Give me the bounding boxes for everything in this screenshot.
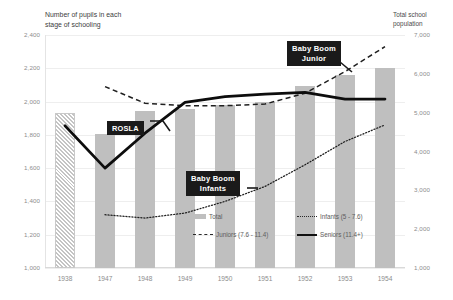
right-axis-tick-label: 2,000 <box>414 225 444 232</box>
legend-label-juniors: Juniors (7.6 - 11.4) <box>216 231 268 238</box>
x-axis-tick-label: 1938 <box>45 275 85 282</box>
gridline <box>45 268 405 269</box>
legend-label-seniors: Seniors (11.4+) <box>320 231 363 238</box>
right-axis-tick-label: 3,000 <box>414 186 444 193</box>
left-axis-title: Number of pupils in each stage of school… <box>45 10 205 30</box>
left-axis-tick-label: 2,400 <box>14 31 40 38</box>
left-axis-tick-label: 2,200 <box>14 64 40 71</box>
right-axis-tick-label: 5,000 <box>414 109 444 116</box>
right-axis-tick-label: 6,000 <box>414 70 444 77</box>
legend: Total Infants (5 - 7.6) Juniors (7.6 - 1… <box>193 213 405 249</box>
x-axis-tick-label: 1949 <box>165 275 205 282</box>
right-axis-tick-label: 4,000 <box>414 148 444 155</box>
right-axis-title: Total school population <box>393 10 451 29</box>
x-axis-tick-label: 1947 <box>85 275 125 282</box>
legend-label-total: Total <box>209 213 222 220</box>
left-axis-tick-label: 1,000 <box>14 264 40 271</box>
left-axis-tick-label: 1,800 <box>14 131 40 138</box>
callout-baby-boom-junior: Baby Boom Junior <box>287 41 341 66</box>
legend-solid-line-icon <box>297 234 317 236</box>
x-axis-tick-label: 1950 <box>205 275 245 282</box>
legend-item-seniors: Seniors (11.4+) <box>297 231 363 238</box>
legend-dotted-line-icon <box>297 216 317 217</box>
x-axis-tick-label: 1951 <box>245 275 285 282</box>
juniors-line <box>105 47 385 106</box>
legend-item-juniors: Juniors (7.6 - 11.4) <box>193 231 268 238</box>
right-axis-tick-label: 7,000 <box>414 31 444 38</box>
legend-bar-swatch-icon <box>193 214 206 219</box>
left-axis-tick-label: 1,400 <box>14 197 40 204</box>
x-axis-tick-label: 1948 <box>125 275 165 282</box>
left-axis-tick-label: 2,000 <box>14 98 40 105</box>
legend-item-total: Total <box>193 213 222 220</box>
x-axis-tick-label: 1953 <box>325 275 365 282</box>
callout-baby-boom-infants: Baby Boom Infants <box>186 171 240 196</box>
legend-label-infants: Infants (5 - 7.6) <box>320 213 363 220</box>
right-axis-tick-label: 1,000 <box>414 264 444 271</box>
callout-rosla: ROSLA <box>107 121 144 135</box>
infants-line <box>105 125 385 218</box>
x-axis-tick-label: 1952 <box>285 275 325 282</box>
left-axis-tick-label: 1,600 <box>14 164 40 171</box>
x-axis-tick-label: 1954 <box>365 275 405 282</box>
left-axis-tick-label: 1,200 <box>14 231 40 238</box>
legend-dashed-line-icon <box>193 234 213 235</box>
chart-container: Number of pupils in each stage of school… <box>0 0 453 300</box>
legend-item-infants: Infants (5 - 7.6) <box>297 213 363 220</box>
